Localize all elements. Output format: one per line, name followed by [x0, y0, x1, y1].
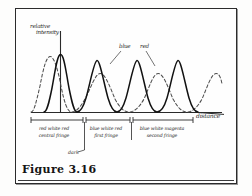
fringe-name-second: second fringe — [131, 133, 193, 140]
fringe-annotation-second: blue white magenta second fringe — [131, 126, 193, 140]
y-axis-label: relative intensity — [30, 24, 59, 36]
y-axis-label-line2: intensity — [36, 30, 59, 36]
fringe-annotation-central: red white red central fringe — [28, 126, 80, 140]
x-axis-label: distance — [196, 113, 220, 119]
caption-rule — [18, 180, 234, 181]
fringe-colors-first: blue white red — [83, 126, 129, 133]
fringe-colors-second: blue white magenta — [131, 126, 193, 133]
figure-caption: Figure 3.16 — [22, 163, 96, 176]
fringe-name-central: central fringe — [28, 133, 80, 140]
figure-container: relative intensity distance blue red red… — [0, 0, 252, 196]
legend-label-red: red — [140, 44, 149, 50]
legend-label-blue: blue — [119, 44, 130, 50]
fringe-name-first: first fringe — [83, 133, 129, 140]
fringe-colors-central: red white red — [28, 126, 80, 133]
dark-region-label: dark — [68, 150, 79, 155]
fringe-annotation-first: blue white red first fringe — [83, 126, 129, 140]
